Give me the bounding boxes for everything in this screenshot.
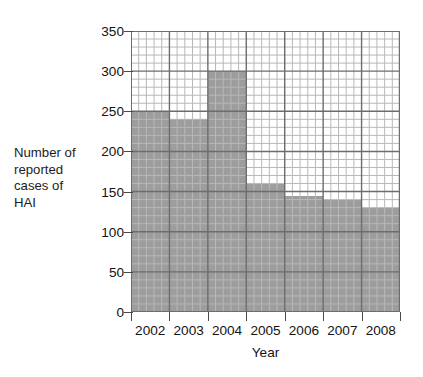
y-tickmark-100 bbox=[124, 232, 133, 233]
bar-2005 bbox=[246, 184, 284, 312]
bar-2007 bbox=[323, 200, 361, 312]
x-tick-label-2005: 2005 bbox=[250, 323, 280, 338]
y-tick-label-50: 50 bbox=[109, 264, 124, 279]
x-tickmark-0 bbox=[131, 312, 132, 321]
x-tick-label-2008: 2008 bbox=[366, 323, 396, 338]
plot-area bbox=[131, 31, 400, 312]
bars-group bbox=[131, 31, 400, 312]
x-tick-label-2003: 2003 bbox=[174, 323, 204, 338]
x-tickmark-6 bbox=[362, 312, 363, 321]
x-tick-label-2002: 2002 bbox=[135, 323, 165, 338]
x-tickmark-3 bbox=[246, 312, 247, 321]
y-tickmark-250 bbox=[124, 111, 133, 112]
y-tickmark-50 bbox=[124, 272, 133, 273]
y-tick-label-350: 350 bbox=[101, 24, 124, 39]
bar-2008 bbox=[362, 208, 400, 312]
x-tickmark-5 bbox=[323, 312, 324, 321]
y-tickmark-150 bbox=[124, 192, 133, 193]
y-tick-label-0: 0 bbox=[116, 305, 124, 320]
x-tickmark-7 bbox=[400, 312, 401, 321]
bar-2006 bbox=[285, 196, 323, 312]
y-tick-label-100: 100 bbox=[101, 224, 124, 239]
bar-2002 bbox=[131, 111, 169, 312]
y-tick-label-300: 300 bbox=[101, 64, 124, 79]
bar-2003 bbox=[169, 119, 207, 312]
x-tickmark-4 bbox=[285, 312, 286, 321]
y-tickmark-300 bbox=[124, 71, 133, 72]
y-tick-label-200: 200 bbox=[101, 144, 124, 159]
x-tickmark-2 bbox=[208, 312, 209, 321]
x-tick-label-2006: 2006 bbox=[289, 323, 319, 338]
x-tick-label-2004: 2004 bbox=[212, 323, 242, 338]
x-tick-label-2007: 2007 bbox=[327, 323, 357, 338]
top-cropped-artifact bbox=[60, 0, 180, 9]
chart-figure: Number of reported cases of HAI 05010015… bbox=[0, 0, 423, 377]
y-axis-ticks: 050100150200250300350 bbox=[88, 31, 124, 312]
y-tickmark-350 bbox=[124, 31, 133, 32]
bar-2004 bbox=[208, 71, 246, 312]
y-tick-label-250: 250 bbox=[101, 104, 124, 119]
y-tickmark-200 bbox=[124, 151, 133, 152]
x-axis-label: Year bbox=[131, 345, 400, 360]
y-tick-label-150: 150 bbox=[101, 184, 124, 199]
x-tickmark-1 bbox=[169, 312, 170, 321]
